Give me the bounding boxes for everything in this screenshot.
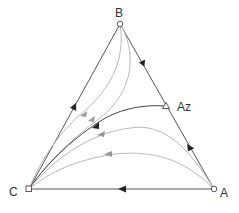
- curve-b-c-2: [29, 24, 130, 189]
- vertex-c-marker: [26, 186, 32, 192]
- curve-a-c-1: [29, 127, 214, 189]
- label-b: B: [115, 6, 123, 20]
- arrow-edge-a-c-icon: [118, 186, 126, 193]
- residue-curve-map: B Az C A: [0, 0, 239, 213]
- arrow-curve-2-icon: [88, 116, 95, 122]
- label-c: C: [9, 185, 18, 199]
- curve-a-c-2: [29, 153, 214, 189]
- direction-arrows: [70, 59, 194, 192]
- vertex-a-marker: [211, 186, 217, 192]
- arrow-edge-b-c-icon: [70, 102, 80, 112]
- label-az: Az: [177, 100, 191, 114]
- label-a: A: [220, 186, 228, 200]
- vertex-b-marker: [117, 21, 123, 27]
- separatrix-az-c: [29, 106, 166, 189]
- arrow-edge-a-az-icon: [185, 142, 195, 152]
- arrow-edge-b-az-icon: [139, 59, 148, 68]
